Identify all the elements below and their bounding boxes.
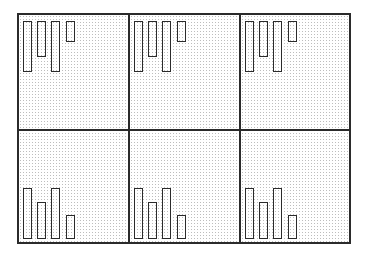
bar-2: [37, 21, 46, 57]
bar-1: [134, 21, 143, 72]
bar-3: [51, 188, 60, 239]
bar-2: [148, 21, 157, 57]
bar-1: [23, 188, 32, 239]
figure-canvas: [0, 0, 368, 263]
bar-4: [177, 21, 186, 42]
bar-2: [259, 202, 268, 239]
panel-bottom-right: [241, 131, 351, 245]
panel-bottom-left: [19, 131, 129, 245]
bar-1: [245, 188, 254, 239]
bar-3: [162, 188, 171, 239]
panel-top-center: [130, 15, 240, 129]
bar-3: [273, 21, 282, 72]
panel-grid: [17, 13, 351, 244]
bar-2: [148, 202, 157, 239]
bar-1: [134, 188, 143, 239]
bar-3: [273, 188, 282, 239]
bar-4: [66, 215, 75, 239]
panel-top-left: [19, 15, 129, 129]
bar-1: [245, 21, 254, 72]
bar-1: [23, 21, 32, 72]
panel-top-right: [241, 15, 351, 129]
bar-3: [51, 21, 60, 72]
bar-2: [259, 21, 268, 57]
panel-bottom-center: [130, 131, 240, 245]
bar-3: [162, 21, 171, 72]
bar-4: [288, 21, 297, 42]
bar-2: [37, 202, 46, 239]
bar-4: [177, 215, 186, 239]
bar-4: [288, 215, 297, 239]
bar-4: [66, 21, 75, 42]
